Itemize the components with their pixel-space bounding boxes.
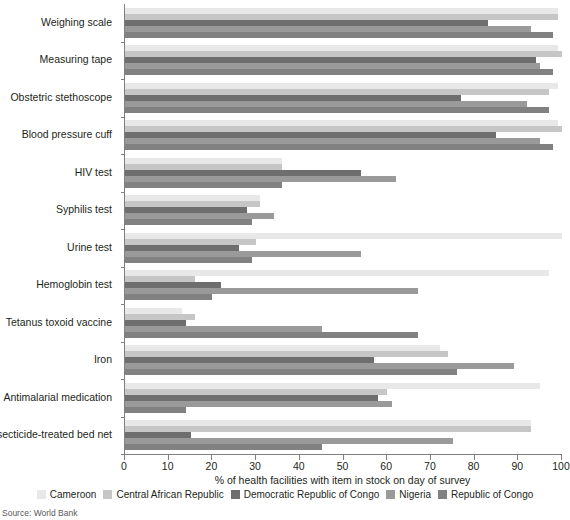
bar-group	[125, 154, 562, 192]
bar-group	[125, 79, 562, 117]
bar-group	[125, 304, 562, 342]
x-axis-tick-label: 0	[121, 460, 127, 472]
bar[interactable]	[125, 257, 252, 263]
bar[interactable]	[125, 69, 553, 75]
x-axis-tick-label: 30	[249, 460, 261, 472]
y-axis-category-label: Weighing scale	[0, 4, 119, 42]
x-axis-tick-label: 90	[511, 460, 523, 472]
y-axis-category-label: Measuring tape	[0, 42, 119, 80]
y-axis-category-label: Insecticide-treated bed net	[0, 417, 119, 455]
x-axis-title: % of health facilities with item in stoc…	[124, 474, 561, 486]
y-axis-category-label: Tetanus toxoid vaccine	[0, 304, 119, 342]
bar-row	[125, 407, 562, 413]
bar-row	[125, 219, 562, 225]
bar-row	[125, 182, 562, 188]
plot-area: Weighing scaleMeasuring tapeObstetric st…	[0, 0, 570, 462]
y-axis-category-label: Iron	[0, 342, 119, 380]
legend-swatch-icon	[231, 490, 240, 499]
legend-label: Democratic Republic of Congo	[244, 489, 380, 500]
legend-item[interactable]: Democratic Republic of Congo	[231, 489, 380, 500]
chart-root: Weighing scaleMeasuring tapeObstetric st…	[0, 0, 570, 520]
x-axis-tick-label: 70	[424, 460, 436, 472]
bar-row	[125, 444, 562, 450]
bar-group	[125, 192, 562, 230]
bar[interactable]	[125, 369, 457, 375]
y-axis-category-label: Antimalarial medication	[0, 379, 119, 417]
x-axis-tick-label: 80	[468, 460, 480, 472]
bar-row	[125, 144, 562, 150]
y-axis-category-labels: Weighing scaleMeasuring tapeObstetric st…	[0, 4, 119, 454]
bar-group	[125, 42, 562, 80]
bar-group	[125, 342, 562, 380]
x-axis-tick-label: 20	[206, 460, 218, 472]
bars-container	[124, 4, 562, 454]
bar[interactable]	[125, 407, 186, 413]
legend-swatch-icon	[386, 490, 395, 499]
bar-row	[125, 294, 562, 300]
bar-row	[125, 69, 562, 75]
bar[interactable]	[125, 444, 322, 450]
x-axis-tick-label: 100	[552, 460, 570, 472]
bar-group	[125, 267, 562, 305]
bar[interactable]	[125, 32, 553, 38]
bar[interactable]	[125, 144, 553, 150]
bar[interactable]	[125, 107, 549, 113]
legend-label: Nigeria	[399, 489, 431, 500]
bar[interactable]	[125, 294, 212, 300]
bar-row	[125, 107, 562, 113]
chart-legend: CameroonCentral African RepublicDemocrat…	[0, 489, 570, 500]
bar-row	[125, 257, 562, 263]
y-axis-category-label: Syphilis test	[0, 192, 119, 230]
bar-group	[125, 379, 562, 417]
x-axis-tick-labels: 0102030405060708090100	[0, 460, 570, 474]
x-axis-tick-label: 40	[293, 460, 305, 472]
legend-swatch-icon	[37, 490, 46, 499]
bar-row	[125, 369, 562, 375]
x-axis-tick-label: 10	[162, 460, 174, 472]
x-axis-tick-label: 50	[337, 460, 349, 472]
bar-group	[125, 229, 562, 267]
bar-group	[125, 117, 562, 155]
y-axis-category-label: Urine test	[0, 229, 119, 267]
legend-item[interactable]: Cameroon	[37, 489, 97, 500]
x-axis-tick-label: 60	[380, 460, 392, 472]
legend-item[interactable]: Republic of Congo	[438, 489, 533, 500]
bar-group	[125, 417, 562, 455]
legend-label: Republic of Congo	[451, 489, 533, 500]
legend-swatch-icon	[103, 490, 112, 499]
legend-label: Central African Republic	[116, 489, 223, 500]
legend-swatch-icon	[438, 490, 447, 499]
legend-item[interactable]: Nigeria	[386, 489, 431, 500]
bar-row	[125, 332, 562, 338]
legend-item[interactable]: Central African Republic	[103, 489, 223, 500]
bar[interactable]	[125, 219, 252, 225]
bar[interactable]	[125, 182, 282, 188]
source-note: Source: World Bank	[2, 508, 77, 518]
legend-label: Cameroon	[50, 489, 97, 500]
bar-group	[125, 4, 562, 42]
y-axis-category-label: Hemoglobin test	[0, 267, 119, 305]
y-axis-category-label: Obstetric stethoscope	[0, 79, 119, 117]
y-axis-category-label: Blood pressure cuff	[0, 117, 119, 155]
y-axis-category-label: HIV test	[0, 154, 119, 192]
bar[interactable]	[125, 332, 418, 338]
bar-row	[125, 32, 562, 38]
